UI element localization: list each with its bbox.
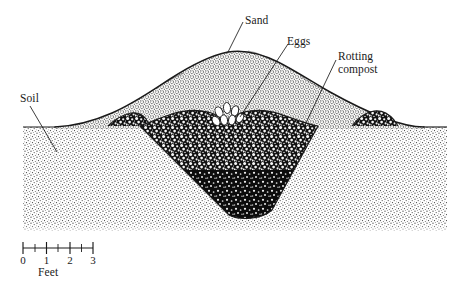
label-soil: Soil [20, 92, 39, 105]
scale-label-1: 1 [40, 254, 54, 266]
label-eggs: Eggs [287, 35, 310, 48]
scale-label-2: 2 [63, 254, 77, 266]
scale-label-3: 3 [86, 254, 100, 266]
diagram-canvas [0, 0, 455, 288]
mound-cross-section-figure: Sand Eggs Rottingcompost Soil 0 1 2 3 Fe… [0, 0, 455, 288]
label-rotting-compost-line2: compost [338, 63, 378, 75]
scale-label-0: 0 [16, 254, 30, 266]
label-rotting-compost: Rottingcompost [338, 50, 378, 75]
scale-unit-label: Feet [38, 266, 58, 279]
scale-bar [23, 242, 93, 254]
label-rotting-compost-line1: Rotting [338, 50, 373, 62]
leader-sand [228, 22, 243, 52]
label-sand: Sand [245, 14, 268, 27]
